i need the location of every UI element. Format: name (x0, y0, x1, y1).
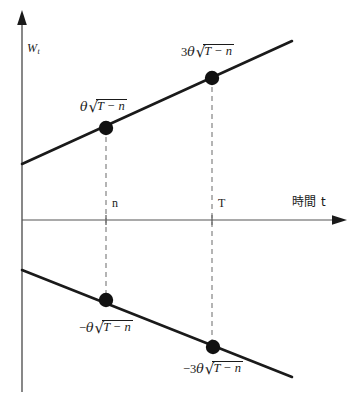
radical-lower-near: √T − n (94, 321, 133, 336)
annotation-lower-far-radicand: T − n (213, 361, 241, 375)
x-axis-label: 時間 t (292, 196, 326, 208)
y-axis-arrowhead (17, 10, 27, 25)
annotation-upper-far-theta: θ (187, 44, 195, 59)
annotation-upper-near-radicand: T − n (97, 99, 125, 113)
marker-upper-T (205, 71, 219, 85)
marker-lower-T (206, 340, 220, 354)
annotation-lower-near-theta: θ (86, 320, 94, 335)
marker-lower-n (99, 293, 113, 307)
radical-lower-far: √T − n (204, 362, 243, 377)
annotation-lower-far: −3θ√T − n (183, 362, 243, 377)
y-axis (17, 10, 27, 392)
y-axis-label: Wt (27, 42, 40, 56)
marker-upper-n (99, 121, 113, 135)
x-axis-arrowhead (332, 215, 347, 225)
annotation-upper-near: θ√T − n (80, 100, 127, 115)
upper-band-line (22, 41, 292, 164)
diagram-canvas: Wt 時間 t n T θ√T − n 3θ√T − n −θ√T − n −3… (0, 0, 357, 406)
annotation-lower-near: −θ√T − n (79, 321, 133, 336)
annotation-lower-far-theta: θ (196, 361, 204, 376)
annotation-lower-near-radicand: T − n (103, 320, 131, 334)
annotation-lower-far-prefix: − (183, 362, 190, 376)
annotation-upper-far-radicand: T − n (204, 44, 232, 58)
radical-upper-far: √T − n (195, 45, 234, 60)
x-tick-label-T: T (218, 197, 225, 209)
annotation-upper-near-theta: θ (80, 99, 88, 114)
radical-upper-near: √T − n (88, 100, 127, 115)
lower-band-line (22, 270, 292, 377)
annotation-upper-far: 3θ√T − n (181, 45, 234, 60)
x-tick-label-n: n (112, 197, 118, 209)
annotation-lower-near-prefix: − (79, 321, 86, 335)
y-axis-label-symbol: W (27, 41, 37, 55)
y-axis-label-subscript: t (38, 47, 40, 56)
x-axis (22, 215, 347, 225)
